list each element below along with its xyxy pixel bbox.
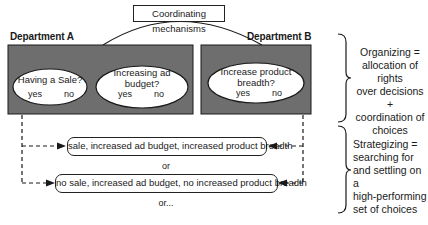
option-yes: yes — [28, 89, 42, 99]
strategizing-brace-icon — [338, 126, 351, 213]
choice-set-2: no sale, increased ad budget, no increas… — [55, 174, 278, 193]
coordinating-mechanisms-box: Coordinating mechanisms — [133, 5, 225, 22]
arrowhead-icon — [46, 180, 55, 187]
option-no: no — [64, 89, 74, 99]
option-yes: yes — [236, 88, 250, 98]
decision-question: Increase product breadth? — [211, 66, 301, 88]
department-b-label: Department B — [247, 31, 311, 42]
decision-question: Increasing ad budget? — [98, 67, 186, 89]
strategizing-annotation: Strategizing = searching for and settlin… — [353, 138, 428, 216]
or-more-separator: or... — [146, 198, 186, 208]
organizing-brace-icon — [338, 34, 351, 122]
option-no: no — [154, 89, 164, 99]
option-no: no — [272, 88, 282, 98]
department-a-label: Department A — [10, 31, 74, 42]
option-yes: yes — [118, 89, 132, 99]
choice-set-1: sale, increased ad budget, increased pro… — [67, 137, 267, 156]
coordinating-mechanisms-label: Coordinating mechanisms — [152, 8, 206, 34]
or-separator: or — [146, 161, 186, 171]
organizing-annotation: Organizing = allocation of rights over d… — [352, 46, 428, 137]
decision-question: Having a Sale? — [14, 74, 86, 85]
arrowhead-icon — [57, 143, 66, 150]
